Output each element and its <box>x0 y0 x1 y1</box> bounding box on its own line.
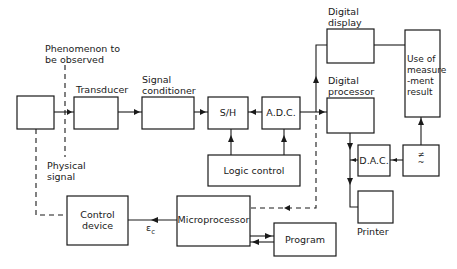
digital-processor-line-1: Digital <box>328 75 374 86</box>
use-line-3: -ment <box>407 76 446 87</box>
physical-signal-label: Physical signal <box>47 160 86 182</box>
digital-display-block <box>327 29 374 63</box>
printer-block <box>358 191 393 223</box>
arrow-icon <box>134 109 140 115</box>
control-device-label: Control device <box>67 209 128 231</box>
use-line-2: measure <box>407 65 446 76</box>
transducer-label: Transducer <box>76 84 128 95</box>
arrow-icon <box>313 76 319 83</box>
signal-conditioner-line-2: conditioner <box>142 85 196 96</box>
printer-label: Printer <box>357 226 389 237</box>
phenomenon-line-2: be observed <box>45 54 120 65</box>
digital-display-line-1: Digital <box>328 6 362 17</box>
digital-processor-line-2: processor <box>328 86 374 97</box>
arrow-icon <box>418 118 424 125</box>
dac-label: D.A.C. <box>358 155 390 166</box>
physical-signal-line-2: signal <box>47 171 86 182</box>
sample-hold-label: S/H <box>208 107 248 118</box>
arrow-icon <box>347 143 353 150</box>
adc-label: A.D.C. <box>262 107 300 118</box>
arrow-icon <box>200 109 206 115</box>
digital-display-label: Digital display <box>328 6 362 28</box>
control-device-line-1: Control <box>67 209 128 220</box>
tilde-icon: ~ <box>403 159 439 167</box>
program-label: Program <box>274 234 336 245</box>
arrow-icon <box>250 109 256 115</box>
arrow-icon <box>284 205 290 211</box>
arrow-icon <box>252 239 259 245</box>
arrow-icon <box>228 135 234 142</box>
arrow-icon <box>265 233 272 239</box>
phenomenon-label: Phenomenon to be observed <box>45 43 120 65</box>
signal-conditioner-block <box>142 97 194 129</box>
microprocessor-label: Microprocessor <box>177 214 250 225</box>
arrow-icon <box>67 109 72 115</box>
arrow-icon <box>347 178 353 185</box>
signal-conditioner-label: Signal conditioner <box>142 74 196 96</box>
signal-conditioner-line-1: Signal <box>142 74 196 85</box>
transducer-block <box>74 97 118 129</box>
use-line-1: Use of <box>407 54 446 65</box>
epsilon-subscript: c <box>151 228 155 236</box>
use-line-4: result <box>407 87 446 98</box>
arrow-icon <box>392 158 397 162</box>
ac-dc-converter-label: ≠ ~ <box>403 151 439 167</box>
control-device-line-2: device <box>67 220 128 231</box>
arrow-icon <box>281 135 287 142</box>
control-signal-label: εc <box>146 222 155 238</box>
physical-signal-line-1: Physical <box>47 160 86 171</box>
digital-processor-block <box>327 98 374 133</box>
logic-control-label: Logic control <box>208 165 300 176</box>
digital-processor-label: Digital processor <box>328 75 374 97</box>
arrow-icon <box>351 158 356 162</box>
source-block <box>17 96 54 129</box>
digital-display-line-2: display <box>328 17 362 28</box>
arrow-icon <box>319 109 325 115</box>
phenomenon-line-1: Phenomenon to <box>45 43 120 54</box>
use-of-result-label: Use of measure -ment result <box>407 54 446 98</box>
